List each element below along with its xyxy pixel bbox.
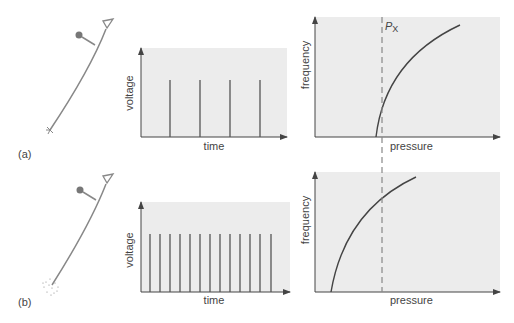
x-axis-label: time bbox=[204, 140, 225, 152]
x-axis-label: pressure bbox=[390, 294, 433, 306]
x-axis-label: time bbox=[204, 294, 225, 306]
voltage-plot-b: time voltage bbox=[123, 202, 290, 306]
receptor-neuron-a bbox=[46, 19, 113, 134]
y-axis-label: frequency bbox=[299, 40, 311, 89]
figure: (a) (b) time voltage bbox=[0, 0, 514, 323]
frequency-plot-b: pressure frequency bbox=[299, 172, 500, 306]
y-axis-label: voltage bbox=[123, 75, 135, 110]
voltage-plot-a: time voltage bbox=[123, 48, 287, 152]
x-axis-label: pressure bbox=[390, 140, 433, 152]
y-axis-label: voltage bbox=[123, 232, 135, 267]
row-label-b: (b) bbox=[18, 296, 31, 308]
receptor-neuron-b bbox=[42, 174, 113, 296]
y-axis-label: frequency bbox=[299, 195, 311, 244]
row-label-a: (a) bbox=[18, 148, 31, 160]
frequency-plot-a: PX pressure frequency bbox=[299, 17, 500, 152]
